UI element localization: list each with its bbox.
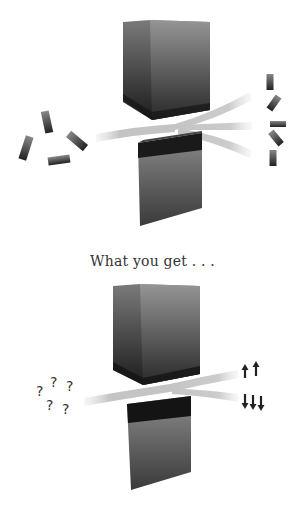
top-magnet-pole	[123, 20, 210, 120]
arrow-up-icon	[253, 361, 260, 376]
bar-magnet-icon	[267, 74, 274, 90]
svg-text:?: ?	[50, 374, 57, 390]
svg-text:?: ?	[36, 383, 43, 399]
bar-magnet-icon	[270, 150, 277, 166]
arrow-down-icon	[250, 395, 257, 410]
arrow-up-icon	[242, 364, 249, 378]
bar-magnet-icon	[48, 155, 71, 166]
bar-magnet-icon	[268, 130, 284, 147]
svg-text:?: ?	[62, 401, 69, 417]
bottom-diagram: ? ? ? ? ?	[36, 284, 265, 490]
bar-magnet-icon	[41, 110, 53, 133]
svg-text:?: ?	[66, 378, 73, 394]
top-diagram	[18, 20, 286, 226]
caption-text: What you get . . .	[0, 253, 305, 269]
svg-text:?: ?	[46, 397, 53, 413]
bar-magnet-icon	[267, 94, 282, 111]
outgoing-magnets	[267, 74, 287, 166]
incoming-magnets	[18, 110, 88, 165]
bar-magnet-icon	[66, 131, 88, 151]
arrow-down-icon	[242, 394, 249, 409]
arrow-down-icon	[258, 396, 265, 411]
bottom-magnet-pole	[127, 396, 191, 490]
bottom-magnet-pole	[138, 131, 202, 226]
bar-magnet-icon	[270, 121, 286, 127]
unknown-spin-symbols: ? ? ? ? ?	[36, 374, 73, 417]
spin-down-arrows	[242, 394, 265, 411]
top-magnet-pole	[113, 284, 200, 385]
bar-magnet-icon	[18, 135, 33, 160]
spin-up-arrows	[242, 361, 260, 378]
